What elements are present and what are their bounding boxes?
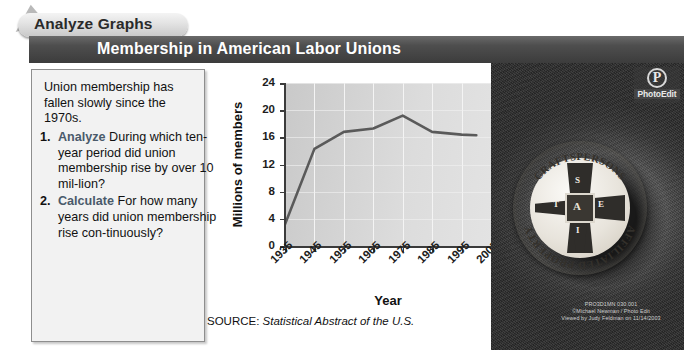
y-tick: [280, 219, 285, 221]
y-tick-label: 16: [235, 130, 275, 142]
intro-text: Union membership has fallen slowly since…: [44, 80, 196, 127]
y-tick-label: 20: [235, 103, 275, 115]
question-keyword: Calculate: [58, 194, 114, 208]
y-tick-label: 12: [235, 158, 275, 170]
pin-ring-upper-text: CRAFTSPERSONS: [532, 151, 628, 182]
source-prefix: SOURCE:: [207, 315, 263, 327]
list-item: 2.Calculate For how many years did union…: [58, 194, 222, 241]
line-chart: Millions of members 04812162024 19351945…: [211, 71, 491, 343]
source-note: SOURCE: Statistical Abstract of the U.S.: [207, 315, 517, 327]
figure-body: Union membership has fallen slowly since…: [29, 63, 684, 350]
list-item: 1.Analyze During which ten-year period d…: [58, 130, 222, 192]
question-number: 2.: [40, 194, 51, 210]
photo-credit: PRO3D1MN 030.001 ©Michael Newman / Photo…: [536, 301, 684, 323]
union-pin: S E I T A CRAFTSPERSONS AFFILIATED PROPE…: [513, 141, 651, 279]
source-title: Statistical Abstract of the U.S.: [263, 315, 415, 327]
plot-area: [285, 83, 491, 246]
y-tick: [280, 165, 285, 167]
question-number: 1.: [40, 130, 51, 146]
chart-title-bar: Membership in American Labor Unions: [29, 36, 684, 63]
y-tick-label: 4: [235, 212, 275, 224]
analyze-graphs-tab[interactable]: Analyze Graphs: [6, 4, 206, 36]
question-list: 1.Analyze During which ten-year period d…: [38, 130, 222, 243]
credit-line-3: Viewed by Judy Feldman on 11/14/2003: [536, 315, 684, 322]
question-panel: Union membership has fallen slowly since…: [31, 69, 205, 342]
y-tick: [280, 83, 285, 85]
y-tick: [280, 110, 285, 112]
page-title: Membership in American Labor Unions: [29, 40, 469, 58]
y-tick-label: 24: [235, 76, 275, 88]
photoedit-label: PhotoEdit: [634, 89, 680, 99]
pin-ring-lower-text: AFFILIATED PROPERTY: [522, 224, 637, 271]
x-axis-label: Year: [285, 293, 491, 308]
y-tick: [280, 192, 285, 194]
tab-label: Analyze Graphs: [34, 15, 194, 33]
photoedit-badge: P PhotoEdit: [634, 67, 680, 103]
y-tick-label: 8: [235, 185, 275, 197]
credit-line-1: PRO3D1MN 030.001: [536, 301, 684, 308]
photoedit-logo-letter: P: [647, 68, 667, 88]
data-series-line: [285, 83, 491, 246]
y-tick: [280, 137, 285, 139]
union-pin-photograph: S E I T A CRAFTSPERSONS AFFILIATED PROPE…: [491, 63, 684, 350]
question-keyword: Analyze: [58, 130, 106, 144]
credit-line-2: ©Michael Newman / Photo Edit: [536, 308, 684, 315]
pin-ring-text: CRAFTSPERSONS AFFILIATED PROPERTY: [513, 141, 647, 275]
y-tick-label: 0: [235, 239, 275, 251]
